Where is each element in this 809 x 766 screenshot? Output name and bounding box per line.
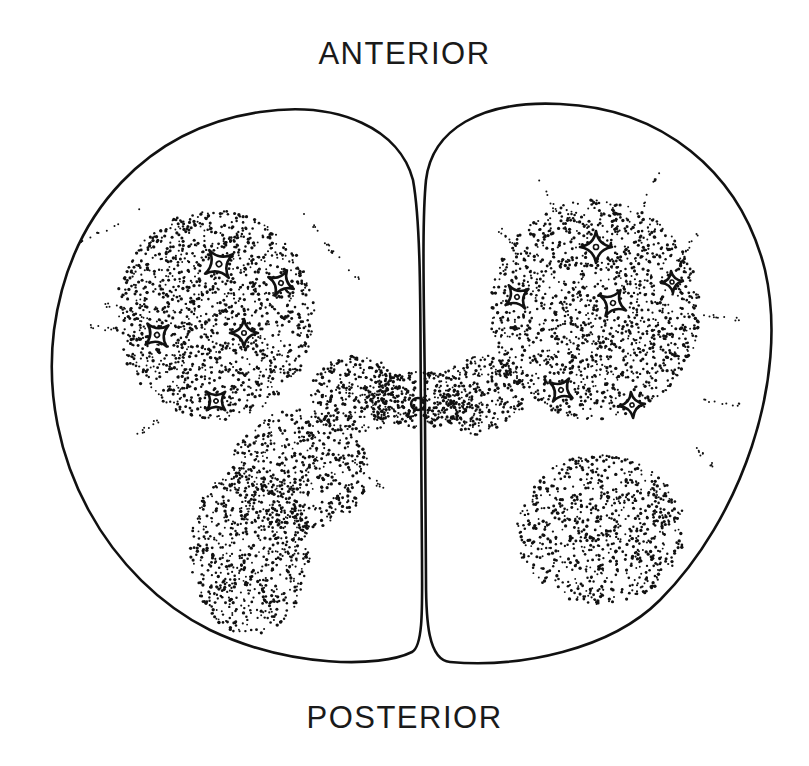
right-half-outline (423, 104, 771, 663)
left-half-outline (52, 109, 422, 662)
spinal-cord-diagram (0, 0, 809, 766)
neuron-icon (498, 278, 537, 317)
